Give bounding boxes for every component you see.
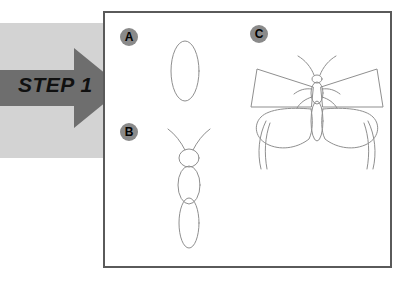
butterfly-full-sketch [243, 55, 391, 173]
marker-c: C [250, 25, 268, 43]
tutorial-step-image: STEP 1 A B C [0, 0, 413, 287]
marker-b: B [120, 123, 138, 141]
marker-a: A [120, 28, 138, 46]
wing-oval-sketch [160, 38, 220, 108]
step-label: STEP 1 [18, 71, 106, 99]
butterfly-body-sketch [155, 128, 225, 250]
